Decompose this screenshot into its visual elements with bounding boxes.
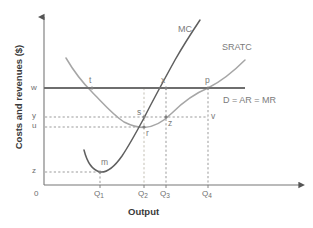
point-marker-t [91, 87, 94, 90]
x-axis-title: Output [128, 207, 159, 217]
point-label-z: z [168, 119, 172, 128]
x-tick-label-q2-sub: 2 [144, 192, 148, 199]
point-label-r: r [146, 129, 149, 138]
y-tick-label-y: y [32, 112, 36, 120]
point-label-x: x [161, 76, 165, 85]
chart-canvas [0, 0, 313, 228]
y-axis-title: Costs and revenues ($) [13, 45, 24, 150]
x-tick-label-q4: Q4 [202, 190, 212, 198]
origin-label: 0 [34, 190, 38, 198]
y-tick-label-u: u [32, 122, 36, 130]
point-marker-p [207, 87, 210, 90]
point-label-t: t [89, 76, 91, 85]
y-tick-label-z: z [32, 167, 36, 175]
y-tick-label-w: w [31, 84, 37, 92]
x-tick-label-q4-sub: 4 [208, 192, 212, 199]
x-tick-label-q1: Q1 [94, 190, 104, 198]
point-marker-x [165, 87, 168, 90]
point-label-p: p [205, 76, 210, 85]
curve-label-demand: D = AR = MR [223, 96, 276, 105]
x-tick-label-q3: Q3 [160, 190, 170, 198]
x-tick-label-q2: Q2 [138, 190, 148, 198]
point-marker-s [143, 116, 146, 119]
point-label-v: v [211, 112, 215, 121]
point-markers [91, 87, 210, 174]
curve-label-sratc: SRATC [222, 43, 252, 52]
mc-curve [84, 20, 200, 172]
x-tick-label-q3-sub: 3 [166, 192, 170, 199]
point-label-s: s [137, 108, 141, 117]
economics-diagram: w y u z 0 Q1 Q2 Q3 Q4 t x p s r z v m MC… [0, 0, 313, 228]
y-axis-title-wrap: Costs and revenues ($) [8, 32, 26, 162]
point-marker-m [99, 171, 102, 174]
x-tick-label-q1-sub: 1 [100, 192, 104, 199]
point-label-m: m [101, 158, 108, 167]
curve-label-mc: MC [178, 25, 192, 34]
